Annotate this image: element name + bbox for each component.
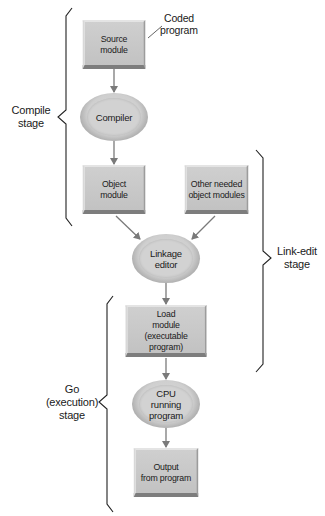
compiler-label: Compiler [96, 112, 132, 123]
other-modules-line2: object modules [188, 189, 244, 200]
object-module-line1: Object [100, 178, 128, 189]
output-node: Output from program [134, 448, 198, 497]
arrow-other-to-linkage [192, 216, 215, 239]
cpu-line3: program [149, 410, 183, 421]
other-modules-line1: Other needed [188, 178, 244, 189]
load-module-line3: (executable program) [127, 330, 204, 352]
go-stage-line1: Go [44, 383, 100, 396]
coded-program-callout: Coded program [160, 12, 208, 36]
compile-stage-line2: stage [6, 117, 56, 130]
linkage-editor-line2: editor [150, 259, 182, 270]
load-module-line2: module [127, 319, 204, 330]
go-stage-line3: stage [44, 409, 100, 422]
compile-stage-line1: Compile [6, 104, 56, 117]
cpu-node: CPU running program [132, 380, 200, 428]
linkage-editor-node: Linkage editor [132, 234, 200, 283]
go-stage-line2: (execution) [44, 396, 100, 409]
load-module-node: Load module (executable program) [126, 305, 207, 357]
link-edit-stage-line1: Link-edit [272, 245, 322, 258]
go-stage-brace [99, 296, 113, 512]
source-module-node: Source module [83, 20, 146, 69]
source-module-line1: Source [100, 33, 128, 44]
source-module-line2: module [100, 44, 128, 55]
link-edit-stage-line2: stage [272, 258, 322, 271]
object-module-node: Object module [83, 165, 146, 214]
output-line2: from program [141, 472, 191, 483]
other-object-modules-node: Other needed object modules [185, 165, 248, 214]
cpu-line2: running [149, 399, 183, 410]
object-module-line2: module [100, 189, 128, 200]
callout-line2: program [160, 24, 208, 36]
callout-line1: Coded [160, 12, 208, 24]
cpu-line1: CPU [149, 388, 183, 399]
arrow-object-to-linkage [116, 216, 140, 239]
linkage-editor-line1: Linkage [150, 248, 182, 259]
job-processing-diagram: Source module Coded program Compiler Obj… [0, 0, 325, 516]
compiler-node: Compiler [80, 93, 148, 141]
compile-stage-label: Compile stage [6, 104, 56, 130]
output-line1: Output [141, 461, 191, 472]
link-edit-stage-brace [256, 150, 271, 372]
go-stage-label: Go (execution) stage [44, 383, 100, 422]
link-edit-stage-label: Link-edit stage [272, 245, 322, 271]
load-module-line1: Load [127, 308, 204, 319]
compile-stage-brace [58, 8, 72, 226]
